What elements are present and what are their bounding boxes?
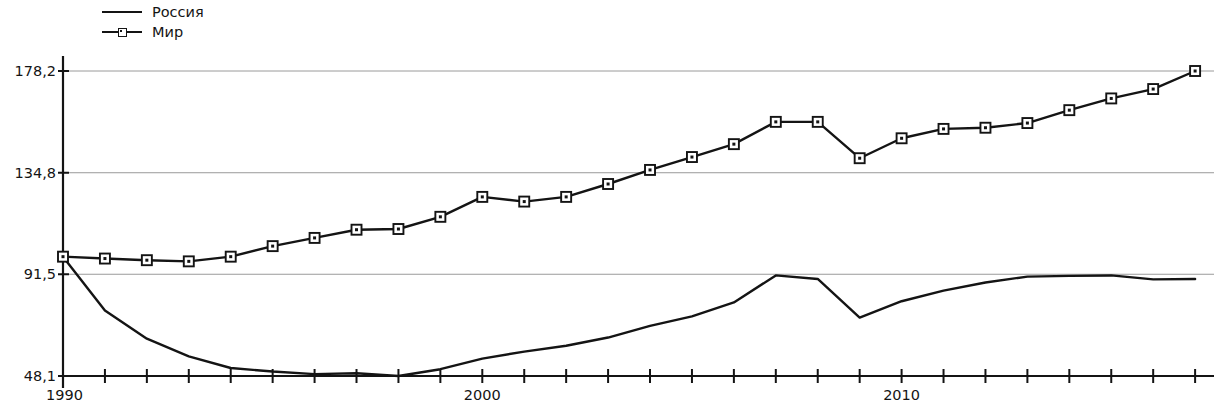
axis-lines (63, 56, 1214, 388)
chart-plot-area (0, 0, 1214, 408)
series-markers-mir (58, 66, 1200, 266)
chart-container: Россия Мир 178,2134,891,548,1 1990200020… (0, 0, 1214, 408)
series-line-mir (63, 71, 1195, 261)
